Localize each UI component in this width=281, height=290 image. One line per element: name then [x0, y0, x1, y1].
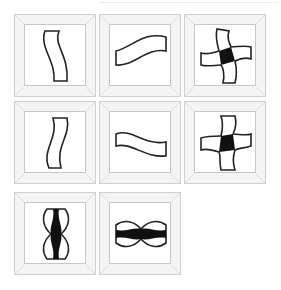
cell-inner: [109, 111, 171, 173]
horizontal-overlap-icon: [110, 203, 172, 265]
cell-inner: [24, 202, 86, 264]
pinwheel-icon: [195, 25, 257, 87]
cell-inner: [24, 24, 86, 86]
cell-r3c2: [99, 192, 181, 275]
cell-r2c3: [184, 101, 266, 184]
vertical-overlap-icon: [25, 203, 87, 265]
cell-r2c2: [99, 101, 181, 184]
cell-r1c3: [184, 14, 266, 97]
cell-inner: [194, 24, 256, 86]
cell-r1c1: [14, 14, 96, 97]
horizontal-wavy-strip-icon: [110, 25, 172, 87]
top-dotted-rule: [100, 2, 278, 3]
cell-inner: [24, 111, 86, 173]
cell-inner: [109, 202, 171, 264]
pinwheel-mirrored-icon: [195, 112, 257, 174]
cell-inner: [194, 111, 256, 173]
horizontal-wavy-strip-mirrored-icon: [110, 112, 172, 174]
cell-inner: [109, 24, 171, 86]
vertical-wavy-strip-icon: [25, 25, 87, 87]
vertical-wavy-strip-mirrored-icon: [25, 112, 87, 174]
cell-r3c1: [14, 192, 96, 275]
cell-r1c2: [99, 14, 181, 97]
cell-r2c1: [14, 101, 96, 184]
